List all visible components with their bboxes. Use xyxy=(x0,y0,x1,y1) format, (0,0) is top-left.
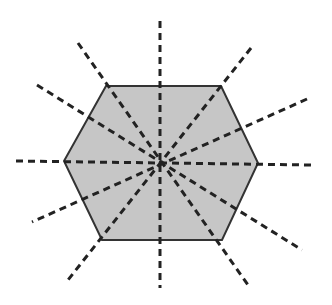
hexagon-symmetry-diagram xyxy=(0,0,332,305)
